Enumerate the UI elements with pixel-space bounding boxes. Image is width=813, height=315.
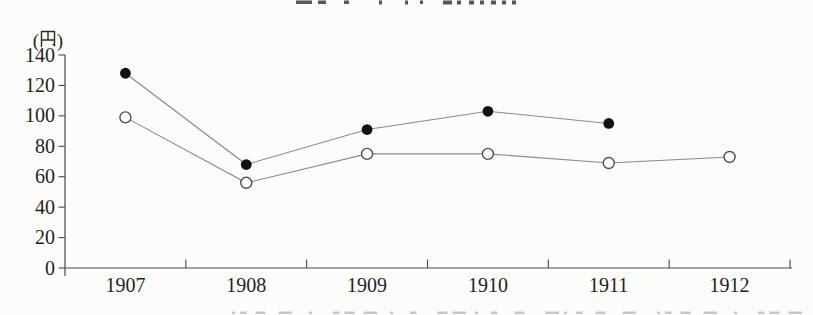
cropped-caption-fragment [515, 312, 525, 315]
y-tick-label: 140 [25, 44, 55, 66]
cropped-caption-fragment [410, 312, 417, 315]
cropped-caption-fragment [364, 312, 378, 315]
cropped-title-fragment [502, 1, 506, 5]
cropped-title-fragment [491, 1, 496, 5]
y-tick-label: 20 [35, 226, 55, 248]
y-tick-label: 80 [35, 135, 55, 157]
x-year-label: 1911 [589, 274, 628, 296]
cropped-caption-fragment [438, 312, 448, 315]
cropped-caption-fragment [681, 312, 691, 315]
y-tick-label: 0 [45, 257, 55, 279]
cropped-caption-fragment [789, 312, 803, 315]
cropped-caption-fragment [333, 312, 340, 315]
cropped-title-fragment [443, 1, 452, 5]
cropped-caption-fragment [758, 312, 765, 315]
cropped-title-fragment [405, 1, 408, 5]
cropped-title-fragment [512, 1, 516, 5]
filled-circle-marker [362, 124, 373, 135]
unit-paren-open: ( [33, 30, 39, 52]
cropped-title-fragment [318, 1, 326, 5]
cropped-caption-fragment [657, 312, 660, 315]
cropped-title-fragment [480, 1, 484, 5]
cropped-caption-fragment [734, 312, 737, 315]
cropped-caption-fragment [564, 312, 567, 315]
cropped-caption-fragment [390, 312, 393, 315]
cropped-caption-fragment [475, 312, 478, 315]
cropped-title-fragment [469, 1, 474, 5]
open-circle-marker [603, 158, 614, 169]
cropped-caption-fragment [345, 312, 355, 315]
cropped-title-fragment [344, 1, 349, 5]
x-year-label: 1910 [468, 274, 508, 296]
cropped-caption-fragment [546, 312, 560, 315]
filled-circle-marker [483, 106, 494, 117]
x-year-label: 1909 [347, 274, 387, 296]
x-year-label: 1908 [226, 274, 266, 296]
cropped-caption-fragment [665, 312, 672, 315]
filled-circle-marker [603, 118, 614, 129]
unit-paren-close: ) [57, 30, 63, 52]
y-tick-label: 100 [25, 104, 55, 126]
open-circle-marker [362, 148, 373, 159]
cropped-caption-fragment [491, 312, 498, 315]
cropped-caption-fragment [309, 312, 312, 315]
cropped-title-fragment [420, 1, 423, 5]
cropped-title-fragment [379, 1, 382, 5]
cropped-caption-fragment [596, 312, 606, 315]
filled-circle-marker [120, 68, 131, 79]
y-tick-label: 60 [35, 165, 55, 187]
cropped-caption-fragment [279, 312, 293, 315]
cropped-title-fragment [457, 1, 461, 5]
cropped-caption-fragment [240, 312, 247, 315]
cropped-caption-fragment [453, 312, 467, 315]
cropped-caption-fragment [623, 312, 637, 315]
cropped-caption-fragment [704, 312, 718, 315]
cropped-caption-fragment [770, 312, 780, 315]
open-circle-marker [120, 112, 131, 123]
open-circle-marker [482, 148, 493, 159]
cropped-caption-fragment [232, 312, 235, 315]
open-circle-marker [241, 177, 252, 188]
y-tick-label: 40 [35, 196, 55, 218]
y-tick-label: 120 [25, 74, 55, 96]
line-chart: 0204060801001201401907190819091910191119… [0, 0, 813, 315]
x-year-label: 1912 [710, 274, 750, 296]
x-year-label: 1907 [105, 274, 145, 296]
cropped-caption-fragment [256, 312, 266, 315]
cropped-caption-fragment [576, 312, 583, 315]
cropped-title-fragment [296, 1, 312, 5]
chart-page: 0204060801001201401907190819091910191119… [0, 0, 813, 315]
filled-circle-marker [241, 159, 252, 170]
open-circle-marker [724, 151, 735, 162]
